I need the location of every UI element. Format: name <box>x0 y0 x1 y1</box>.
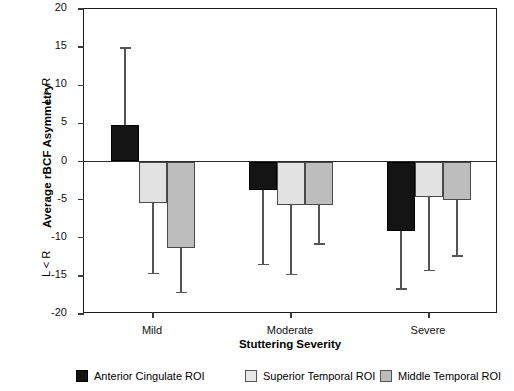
y-axis-tick-label: -15 <box>37 268 67 280</box>
chart-figure: Average rBCF Asymmetry L > R L < R 20151… <box>0 0 514 391</box>
legend-item-2: Middle Temporal ROI <box>380 370 501 382</box>
y-axis-direction-upper: L > R <box>40 61 52 121</box>
x-axis-tick <box>290 312 291 318</box>
y-axis-tick <box>78 313 84 314</box>
legend-item-1: Superior Temporal ROI <box>245 370 375 382</box>
legend-swatch-icon <box>380 370 392 382</box>
y-axis-tick <box>78 46 84 47</box>
error-bar-cap <box>286 274 297 276</box>
y-axis-tick <box>78 123 84 124</box>
bar-moderate-series-2 <box>305 162 333 205</box>
y-axis-tick <box>78 237 84 238</box>
legend-label: Superior Temporal ROI <box>263 370 375 382</box>
error-bar-line <box>124 48 126 125</box>
error-bar-line <box>152 203 154 273</box>
error-bar-line <box>318 205 320 244</box>
bar-moderate-series-1 <box>277 162 305 205</box>
bar-severe-series-2 <box>443 162 471 201</box>
legend-label: Anterior Cingulate ROI <box>94 370 205 382</box>
error-bar-cap <box>258 264 269 266</box>
y-axis-tick <box>78 275 84 276</box>
legend-swatch-icon <box>76 370 88 382</box>
x-axis-tick-label: Mild <box>97 324 207 336</box>
y-axis-tick <box>78 85 84 86</box>
y-axis-direction-lower: L < R <box>40 234 52 294</box>
y-axis-tick-label: -5 <box>37 192 67 204</box>
x-axis-tick-label: Moderate <box>235 324 345 336</box>
bar-mild-series-2 <box>167 162 195 248</box>
y-axis-tick-label: 5 <box>37 115 67 127</box>
y-axis-tick-label: -10 <box>37 230 67 242</box>
error-bar-cap <box>120 47 131 49</box>
bar-severe-series-0 <box>387 162 415 231</box>
error-bar-cap <box>452 255 463 257</box>
y-axis-tick <box>78 8 84 9</box>
error-bar-cap <box>148 273 159 275</box>
bar-severe-series-1 <box>415 162 443 198</box>
error-bar-cap <box>314 243 325 245</box>
x-axis-tick <box>152 312 153 318</box>
plot-inner <box>84 9 496 312</box>
legend-item-0: Anterior Cingulate ROI <box>76 370 205 382</box>
x-axis-title: Stuttering Severity <box>83 338 497 350</box>
error-bar-line <box>400 231 402 289</box>
y-axis-tick-label: 10 <box>37 77 67 89</box>
y-axis-tick-label: -20 <box>37 306 67 318</box>
error-bar-cap <box>176 292 187 294</box>
error-bar-line <box>428 197 430 270</box>
legend-label: Middle Temporal ROI <box>398 370 501 382</box>
error-bar-line <box>290 205 292 274</box>
bar-moderate-series-0 <box>249 162 277 190</box>
bar-mild-series-1 <box>139 162 167 204</box>
y-axis-tick <box>78 161 84 162</box>
error-bar-line <box>456 200 458 256</box>
legend-swatch-icon <box>245 370 257 382</box>
x-axis-tick <box>428 312 429 318</box>
error-bar-line <box>262 190 264 265</box>
error-bar-cap <box>396 288 407 290</box>
chart-legend: Anterior Cingulate ROISuperior Temporal … <box>0 366 514 388</box>
y-axis-tick-label: 20 <box>37 1 67 13</box>
error-bar-line <box>180 248 182 293</box>
bar-mild-series-0 <box>111 125 139 162</box>
y-axis-tick-label: 0 <box>37 154 67 166</box>
y-axis-tick <box>78 199 84 200</box>
plot-area <box>83 8 497 313</box>
error-bar-cap <box>424 270 435 272</box>
y-axis-tick-label: 15 <box>37 39 67 51</box>
x-axis-tick-label: Severe <box>373 324 483 336</box>
